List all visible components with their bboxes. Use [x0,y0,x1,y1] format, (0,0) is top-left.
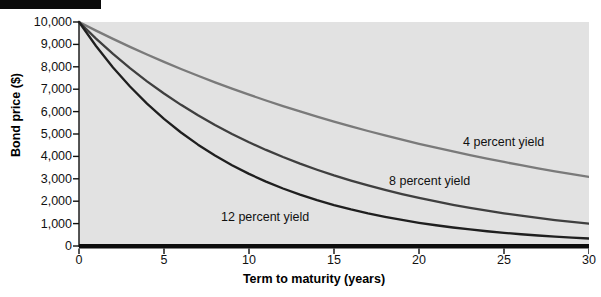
curve-0-12-yield [79,22,589,239]
x-axis-line [79,244,589,249]
x-tick-label: 10 [229,254,269,267]
y-tick-label: 0 [14,240,72,253]
curve-0-08-yield [79,22,589,224]
y-tick-label: 2,000 [14,195,72,208]
y-axis-tick-marks [73,22,79,246]
x-tick-label: 0 [59,254,99,267]
x-tick-label: 20 [399,254,439,267]
y-tick-label: 1,000 [14,218,72,231]
y-tick-label: 9,000 [14,38,72,51]
x-tick-label: 30 [569,254,601,267]
y-axis-title: Bond price ($) [9,55,23,175]
x-axis-title: Term to maturity (years) [79,272,549,286]
x-tick-label: 15 [314,254,354,267]
x-tick-label: 5 [144,254,184,267]
series-annotation-4-percent: 4 percent yield [463,136,544,149]
curve-0-04-yield [79,22,589,177]
series-annotation-8-percent: 8 percent yield [389,175,470,188]
series-annotation-12-percent: 12 percent yield [221,211,309,224]
y-tick-label: 10,000 [14,16,72,29]
x-tick-label: 25 [484,254,524,267]
data-curves [79,22,589,239]
